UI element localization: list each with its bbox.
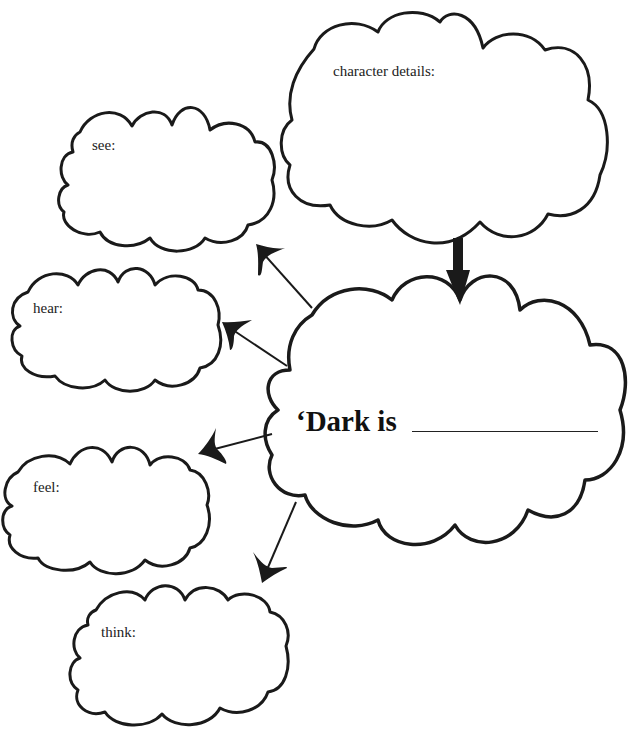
- center-to-feel-arrow: [198, 428, 272, 464]
- hear-label: hear:: [33, 300, 63, 317]
- hear-cloud: [12, 268, 221, 391]
- character-details-label: character details:: [333, 63, 435, 80]
- see-label: see:: [92, 137, 115, 154]
- character-details-cloud: [281, 12, 607, 243]
- answer-blank-line[interactable]: [412, 431, 598, 432]
- center-to-see-arrow: [256, 244, 312, 308]
- diagram-canvas: [0, 0, 630, 732]
- think-label: think:: [101, 624, 136, 641]
- feel-cloud: [3, 447, 210, 573]
- center-to-hear-arrow: [222, 320, 287, 366]
- feel-label: feel:: [33, 479, 60, 496]
- see-cloud: [59, 108, 275, 252]
- center-to-think-arrow: [253, 502, 296, 583]
- think-cloud: [70, 586, 288, 725]
- dark-is-label: ‘Dark is: [296, 405, 397, 438]
